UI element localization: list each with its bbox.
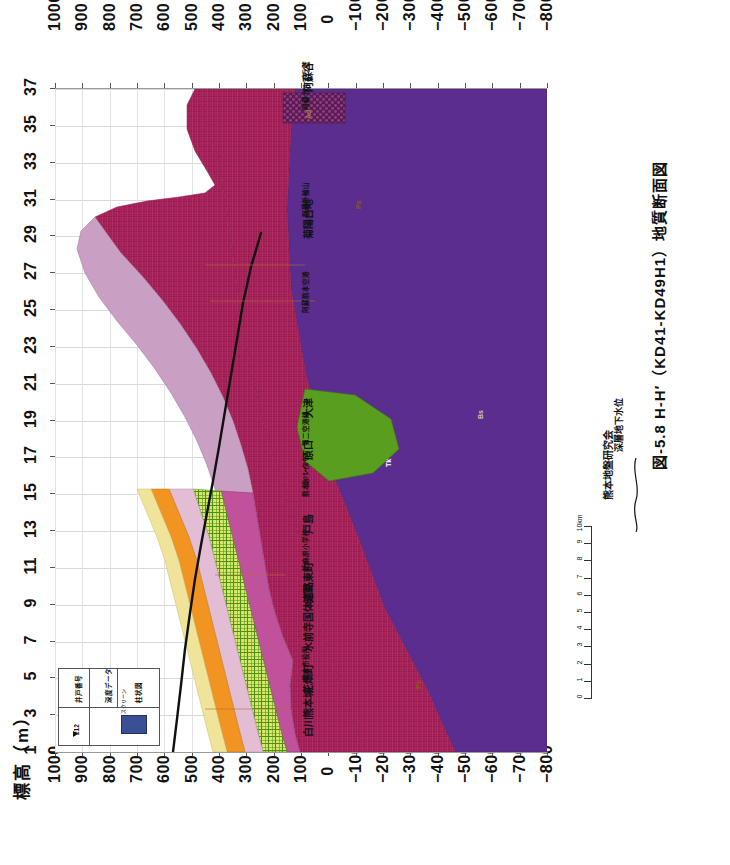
scale-bar-tick-label: 3 [572, 641, 586, 648]
elevation-tick-label: −100 [344, 10, 368, 28]
elevation-tick-label: −600 [480, 762, 504, 780]
elevation-tick-label: 600 [152, 762, 176, 780]
scale-bar-tick-label: 8 [572, 555, 586, 562]
elevation-tick-label: 1000 [43, 762, 67, 780]
place-label: 花畑町 [300, 694, 330, 709]
elevation-tick-label: 500 [180, 762, 204, 780]
elevation-tick-label: 900 [70, 10, 94, 28]
scale-bar-tick-label: 5 [572, 607, 586, 614]
distance-tick-label: 35 [18, 115, 44, 133]
distance-tick-label: 23 [18, 336, 44, 354]
distance-tick-label: 11 [18, 557, 44, 575]
elevation-tick-mark [547, 83, 548, 88]
place-label: 託麻原小学校 [300, 571, 342, 581]
distance-tick-label: 19 [18, 410, 44, 428]
elevation-tick-label: −300 [398, 10, 422, 28]
wavy-line-icon [628, 456, 644, 534]
elevation-tick-label: 700 [125, 10, 149, 28]
elevation-tick-label: 100 [289, 10, 313, 28]
elevation-tick-label: 600 [152, 10, 176, 28]
distance-tick-label: 21 [18, 373, 44, 391]
elevation-tick-label: −400 [426, 10, 450, 28]
elevation-tick-label: 100 [289, 762, 313, 780]
place-label: 健軍 [300, 604, 320, 619]
elevation-tick-label: 300 [234, 10, 258, 28]
scale-bar-tick-label: 9 [572, 538, 586, 545]
place-label: 菊陽台地 [300, 239, 340, 254]
elevation-tick-label: −200 [371, 762, 395, 780]
scale-bar-tick-label: 10km [572, 521, 586, 528]
scale-bar-tick-label: 7 [572, 573, 586, 580]
elevation-tick-label: 400 [207, 762, 231, 780]
distance-tick-label: 37 [18, 78, 44, 96]
place-label: 熊本インター [300, 497, 342, 507]
place-label: 熊本城 [300, 718, 330, 733]
place-label: 阿蘇カルデラ壁 [300, 110, 349, 120]
scale-bar-tick-label: 6 [572, 590, 586, 597]
distance-tick-label: 5 [18, 667, 44, 685]
place-label: 大津 [300, 418, 320, 433]
groundwater-legend: 深層地下水位 [612, 452, 642, 537]
elevation-tick-label: 300 [234, 762, 258, 780]
screen-interval-swatch [121, 715, 147, 734]
place-label: 国体道路 [300, 622, 340, 637]
place-label: 白川 [300, 737, 320, 752]
place-label: 阿蘇外輪山 [300, 217, 335, 227]
scale-bar-tick-label: 2 [572, 659, 586, 666]
elevation-tick-mark [547, 751, 548, 756]
elevation-tick-label: −500 [453, 10, 477, 28]
distance-tick-label: 13 [18, 520, 44, 538]
distance-tick-label: 25 [18, 299, 44, 317]
elevation-tick-label: −100 [344, 762, 368, 780]
distance-tick-label: 29 [18, 225, 44, 243]
elevation-tick-label: −200 [371, 10, 395, 28]
legend-col-well-no: 井戸番号 [73, 703, 101, 713]
place-label: 熊本市役所 [300, 681, 335, 691]
place-label: 原口 [300, 460, 320, 475]
gridline-horizontal [55, 752, 547, 753]
place-label: 第二空港線 [300, 446, 335, 456]
elevation-tick-label: 900 [70, 762, 94, 780]
elevation-axis-title: 標高（m） [8, 800, 101, 825]
place-label: 水前寺 [300, 652, 330, 667]
unit-code-label: Ps [415, 689, 424, 696]
place-label: 戸島 [300, 534, 320, 549]
place-label: 阿蘇谷 [300, 92, 330, 107]
elevation-tick-label: −500 [453, 762, 477, 780]
elevation-tick-label: 800 [98, 10, 122, 28]
legend-divider [117, 669, 118, 707]
place-label: 東バイパス [300, 486, 335, 496]
distance-tick-label: 31 [18, 189, 44, 207]
distance-tick-label: 15 [18, 483, 44, 501]
elevation-tick-label: −700 [508, 762, 532, 780]
well-legend-box: 井戸番号 深度データ 柱状図 212 スクリーン [58, 668, 160, 746]
well-marker-icon [73, 731, 78, 737]
elevation-tick-label: 200 [262, 762, 286, 780]
elevation-tick-label: −700 [508, 10, 532, 28]
unit-code-label: Ps [355, 209, 364, 216]
elevation-tick-label: 800 [98, 762, 122, 780]
elevation-tick-label: 0 [316, 10, 340, 28]
elevation-tick-label: −400 [426, 762, 450, 780]
distance-tick-label: 9 [18, 594, 44, 612]
elevation-tick-label: −800 [535, 10, 559, 28]
elevation-tick-label: −600 [480, 10, 504, 28]
figure-caption: 図-5.8 H-H′（KD41-KD49H1）地質断面図 [648, 470, 730, 491]
distance-tick-label: 27 [18, 262, 44, 280]
unit-code-label: Tk [385, 467, 393, 474]
scale-bar: 012345678910km [578, 520, 604, 705]
legend-col-log: 柱状図 [133, 703, 154, 713]
place-label: 阿蘇熊本空港 [300, 313, 342, 323]
elevation-tick-label: 700 [125, 762, 149, 780]
scale-bar-tick-label: 4 [572, 624, 586, 631]
distance-tick-label: 7 [18, 631, 44, 649]
elevation-tick-label: 200 [262, 10, 286, 28]
unit-code-label: Bs [477, 419, 486, 426]
elevation-tick-label: −300 [398, 762, 422, 780]
elevation-tick-label: 0 [316, 762, 340, 780]
scale-bar-tick-label: 0 [572, 693, 586, 700]
scale-bar-tick-label: 1 [572, 676, 586, 683]
distance-tick-label: 33 [18, 152, 44, 170]
distance-tick-label: 17 [18, 446, 44, 464]
elevation-tick-label: 400 [207, 10, 231, 28]
